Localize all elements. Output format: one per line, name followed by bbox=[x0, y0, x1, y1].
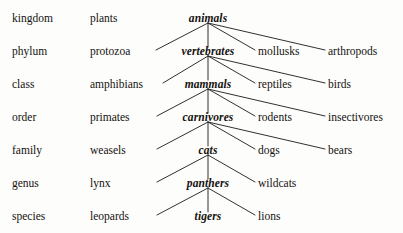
edges-from-carnivores bbox=[157, 122, 325, 149]
sibling-bears: bears bbox=[328, 145, 352, 157]
sibling-left-primates: primates bbox=[90, 112, 130, 124]
sibling-wildcats: wildcats bbox=[258, 178, 296, 190]
sibling-reptiles: reptiles bbox=[258, 79, 292, 91]
sibling-left-plants: plants bbox=[90, 13, 117, 25]
sibling-arthropods: arthropods bbox=[328, 46, 377, 58]
sibling-rodents: rodents bbox=[258, 112, 292, 124]
focus-node-animals: animals bbox=[189, 13, 227, 25]
rank-label-phylum: phylum bbox=[12, 46, 47, 58]
rank-label-order: order bbox=[12, 112, 36, 124]
focus-node-mammals: mammals bbox=[185, 79, 232, 91]
sibling-left-leopards: leopards bbox=[90, 211, 129, 223]
focus-node-panthers: panthers bbox=[187, 178, 229, 190]
sibling-dogs: dogs bbox=[258, 145, 280, 157]
focus-node-carnivores: carnivores bbox=[183, 112, 234, 124]
sibling-lions: lions bbox=[258, 211, 280, 223]
rank-label-class: class bbox=[12, 79, 34, 91]
focus-node-vertebrates: vertebrates bbox=[182, 46, 235, 58]
sibling-mollusks: mollusks bbox=[258, 46, 300, 58]
sibling-left-weasels: weasels bbox=[90, 145, 126, 157]
taxonomy-diagram: kingdom plants animals phylum protozoa v… bbox=[0, 0, 403, 233]
focus-node-cats: cats bbox=[199, 145, 218, 157]
rank-label-genus: genus bbox=[12, 178, 39, 190]
sibling-left-protozoa: protozoa bbox=[90, 46, 130, 58]
focus-node-tigers: tigers bbox=[195, 211, 222, 223]
sibling-birds: birds bbox=[328, 79, 351, 91]
rank-label-family: family bbox=[12, 145, 42, 157]
sibling-left-lynx: lynx bbox=[90, 178, 110, 190]
sibling-insectivores: insectivores bbox=[328, 112, 383, 124]
rank-label-kingdom: kingdom bbox=[12, 13, 53, 25]
sibling-left-amphibians: amphibians bbox=[90, 79, 143, 91]
rank-label-species: species bbox=[12, 211, 45, 223]
